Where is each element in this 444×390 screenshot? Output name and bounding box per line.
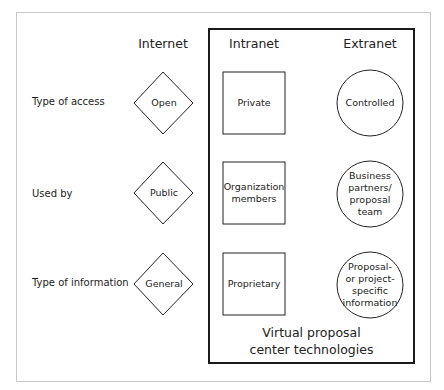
extranet-information-line-2: or project- [345,273,394,285]
internet-public-label: Public [134,186,194,200]
extranet-information-line-4: information [343,297,398,309]
internet-general-label: General [134,277,194,291]
caption-line-1: Virtual proposal [208,324,415,341]
extranet-information-line-3: specific [352,285,388,297]
intranet-private-label: Private [223,72,285,134]
row-label-information: Type of information [32,277,129,288]
intranet-organization-members-label: Organization members [221,162,287,224]
extranet-used-by-line-4: team [358,206,383,218]
column-header-internet: Internet [118,36,208,51]
extranet-information-line-1: Proposal- [348,261,392,273]
extranet-proposal-info-label: Proposal- or project- specific informati… [337,252,403,318]
column-header-intranet: Intranet [209,36,299,51]
extranet-controlled-label: Controlled [337,70,403,136]
extranet-access-line-1: Controlled [346,97,395,109]
column-header-extranet: Extranet [325,36,415,51]
extranet-business-partners-label: Business partners/ proposal team [337,161,403,227]
extranet-used-by-line-1: Business [349,170,391,182]
extranet-used-by-line-2: partners/ [348,182,391,194]
row-label-used-by: Used by [32,188,72,199]
intranet-proprietary-label: Proprietary [221,253,287,315]
intranet-used-by-line-2: members [231,193,276,205]
box-caption: Virtual proposal center technologies [208,324,415,358]
extranet-used-by-line-3: proposal [350,194,391,206]
row-label-access: Type of access [32,96,105,107]
caption-line-2: center technologies [208,341,415,358]
internet-open-label: Open [134,96,194,110]
intranet-used-by-line-1: Organization [224,181,285,193]
